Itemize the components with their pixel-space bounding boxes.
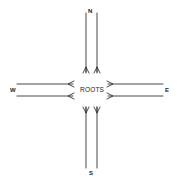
roots-compass-diagram: N S W E ROOTS (0, 0, 177, 186)
east-label: E (165, 87, 169, 93)
north-label: N (88, 8, 92, 14)
south-label: S (89, 170, 93, 176)
center-label-roots: ROOTS (80, 87, 104, 94)
east-lines (107, 81, 163, 99)
south-lines (83, 107, 100, 168)
west-label: W (10, 87, 16, 93)
west-lines (17, 81, 74, 99)
north-lines (83, 13, 100, 73)
